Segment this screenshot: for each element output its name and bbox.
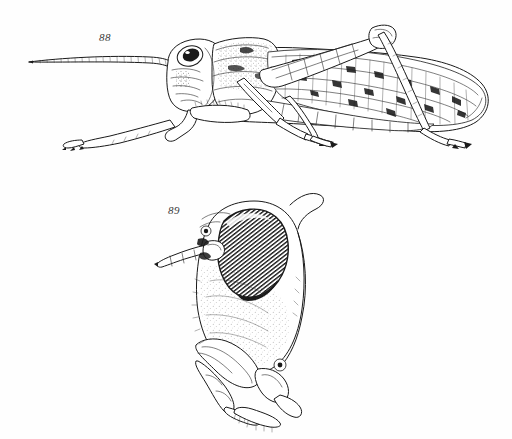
fore-leg — [62, 110, 197, 151]
figure-89-drawing — [140, 185, 370, 435]
illustration-plate: 88 89 — [0, 0, 512, 439]
figure-88-drawing — [0, 0, 512, 180]
figure-88 — [0, 0, 512, 180]
figure-label-88: 88 — [99, 31, 111, 43]
antenna — [29, 56, 171, 68]
figure-89 — [140, 185, 370, 435]
figure-label-89: 89 — [168, 204, 180, 216]
